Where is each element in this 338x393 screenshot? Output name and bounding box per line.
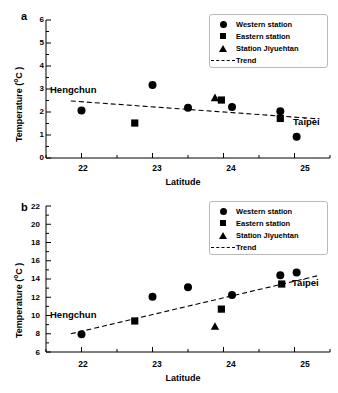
legend-label-jiyuehtan-b: Station Jiyuehtan <box>236 231 299 240</box>
legend-item-trend-b: Trend <box>210 241 327 253</box>
dashed-line-icon <box>208 247 238 248</box>
triangle-marker-icon <box>210 232 236 239</box>
square-marker-icon <box>210 33 236 40</box>
legend-item-jiyuehtan-a: Station Jiyuehtan <box>210 42 327 54</box>
legend-label-western-a: Western station <box>236 20 292 29</box>
legend-label-trend-a: Trend <box>236 56 256 65</box>
legend-label-jiyuehtan-a: Station Jiyuehtan <box>236 44 299 53</box>
legend-item-western-a: Western station <box>210 18 327 30</box>
panel-a: a Temperature (oC ) 6 5 4 3 2 1 0 22 23 … <box>0 0 338 196</box>
legend-label-eastern-a: Eastern station <box>236 32 290 41</box>
legend-a: Western station Eastern station Station … <box>209 14 328 68</box>
legend-item-trend-a: Trend <box>210 54 327 66</box>
legend-item-eastern-a: Eastern station <box>210 30 327 42</box>
panel-b: b Temperature (oC ) 22 20 18 16 14 12 10… <box>0 193 338 393</box>
dashed-line-icon <box>208 60 238 61</box>
triangle-marker-icon <box>210 45 236 52</box>
legend-label-western-b: Western station <box>236 207 292 216</box>
legend-item-jiyuehtan-b: Station Jiyuehtan <box>210 229 327 241</box>
figure-two-panel-scatter: a Temperature (oC ) 6 5 4 3 2 1 0 22 23 … <box>0 0 338 393</box>
square-marker-icon <box>210 220 236 227</box>
circle-marker-icon <box>210 208 236 215</box>
legend-item-western-b: Western station <box>210 205 327 217</box>
legend-item-eastern-b: Eastern station <box>210 217 327 229</box>
legend-label-eastern-b: Eastern station <box>236 219 290 228</box>
legend-label-trend-b: Trend <box>236 243 256 252</box>
circle-marker-icon <box>210 21 236 28</box>
legend-b: Western station Eastern station Station … <box>209 201 328 255</box>
